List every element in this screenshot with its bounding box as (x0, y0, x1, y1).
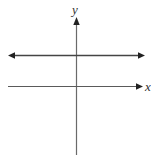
right-arrow-icon (138, 52, 145, 58)
left-arrow-icon (8, 52, 15, 58)
x-axis (8, 83, 143, 89)
x-axis-arrow-icon (136, 83, 143, 89)
y-axis-arrow-icon (73, 17, 79, 25)
y-axis-label: y (70, 2, 78, 17)
coordinate-plane: y x (0, 0, 151, 155)
x-axis-label: x (144, 79, 151, 94)
